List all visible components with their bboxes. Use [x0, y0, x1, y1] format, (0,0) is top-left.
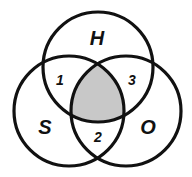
label-o: O	[140, 116, 156, 138]
region-label-2: 2	[93, 129, 102, 145]
venn-diagram: H S O 1 2 3	[0, 0, 192, 177]
region-label-1: 1	[56, 72, 64, 88]
label-s: S	[38, 116, 52, 138]
region-label-3: 3	[128, 72, 136, 88]
label-h: H	[90, 27, 105, 49]
